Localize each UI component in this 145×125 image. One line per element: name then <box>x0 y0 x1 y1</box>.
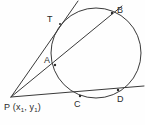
point-t-marker <box>59 23 61 25</box>
label-point-c: C <box>74 100 81 109</box>
label-point-b: B <box>117 6 123 15</box>
label-p-text: P (x <box>4 102 21 112</box>
label-p-sub1: 1 <box>21 107 25 113</box>
point-b-marker <box>111 12 113 14</box>
point-d-marker <box>117 89 119 91</box>
tangent-line-pt <box>11 1 78 97</box>
point-a-marker <box>54 64 56 66</box>
secant-line-pcd <box>11 86 144 97</box>
label-point-t: T <box>47 15 53 24</box>
point-c-marker <box>79 95 81 97</box>
label-point-a: A <box>44 56 50 65</box>
label-p-sub2: 1 <box>34 107 38 113</box>
geometry-figure: P (x1, y1) T B A C D <box>0 0 145 125</box>
label-point-p: P (x1, y1) <box>4 103 41 112</box>
label-point-d: D <box>117 95 124 104</box>
label-p-end: ) <box>38 102 41 112</box>
label-p-mid: , y <box>24 102 34 112</box>
